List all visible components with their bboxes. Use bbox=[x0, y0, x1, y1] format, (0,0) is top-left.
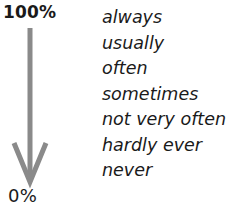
adverb-usually: usually bbox=[102, 31, 226, 57]
down-arrow-icon bbox=[0, 0, 60, 200]
adverb-hardly-ever: hardly ever bbox=[102, 133, 226, 159]
adverb-not-very-often: not very often bbox=[102, 107, 226, 133]
adverb-never: never bbox=[102, 158, 226, 184]
adverb-always: always bbox=[102, 5, 226, 31]
bottom-percentage-label: 0% bbox=[8, 185, 37, 206]
adverb-often: often bbox=[102, 56, 226, 82]
frequency-adverb-list: always usually often sometimes not very … bbox=[102, 5, 226, 184]
adverb-sometimes: sometimes bbox=[102, 82, 226, 108]
